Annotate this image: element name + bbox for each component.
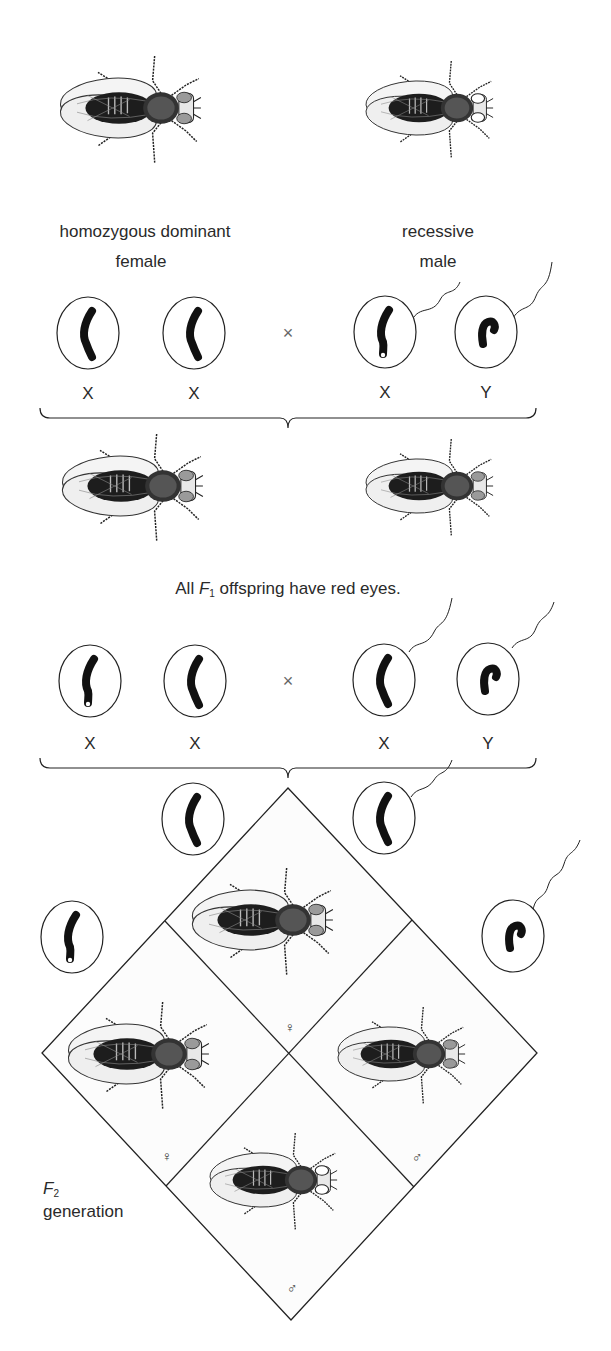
f1-gamete-sperm-x [353,598,452,716]
f1-female-fly [60,434,203,541]
parent-cross-symbol: × [283,324,294,342]
parent-gamete-sperm-y [455,262,552,368]
f1-brace [40,758,536,778]
punnett-egg-dominant [162,783,224,855]
punnett-egg-recessive [41,901,103,973]
female-symbol: ♀ [162,1149,173,1163]
female-symbol: ♀ [285,1020,296,1034]
parent-brace [40,408,536,428]
f1-gamete-egg-dominant [164,645,226,717]
male-parent-label-2: male [420,253,457,270]
female-parent-label-2: female [115,253,166,270]
punnett-sperm-y [482,840,580,972]
male-symbol: ♂ [412,1150,423,1164]
f1-gamete-label: X [378,735,389,752]
f1-caption: All F1 offspring have red eyes. [175,580,400,599]
parent-gamete-label: X [82,385,93,402]
f1-male-fly [364,439,493,536]
f1-gamete-egg-recessive [59,645,121,717]
parent-gamete-label: X [188,385,199,402]
f1-gamete-label: Y [482,735,493,752]
parent-gamete-sperm-x [354,282,460,368]
parent-male-fly [364,60,493,157]
diagram-canvas [0,0,611,1351]
male-parent-label-1: recessive [402,223,474,240]
female-parent-label-1: homozygous dominant [59,223,230,240]
punnett-sperm-x [353,760,452,854]
f1-gamete-sperm-y [457,602,554,715]
parent-gamete-label: Y [480,384,491,401]
f2-generation-label: F2 generation [43,1178,123,1222]
f1-cross-symbol: × [283,672,294,690]
f1-gamete-label: X [189,735,200,752]
parent-gamete-egg-2 [163,297,225,369]
parent-gamete-label: X [379,384,390,401]
parent-female-fly [58,56,201,163]
male-symbol: ♂ [287,1281,298,1295]
f1-gamete-label: X [84,735,95,752]
parent-gamete-egg-1 [57,297,119,369]
